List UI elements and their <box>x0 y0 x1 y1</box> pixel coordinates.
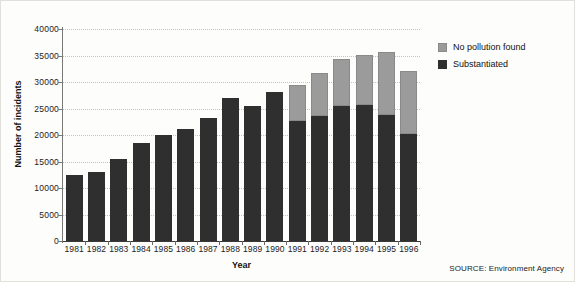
bar-segment-substantiated[interactable] <box>311 116 328 241</box>
bar-segment-substantiated[interactable] <box>356 105 373 241</box>
y-axis-tick-mark <box>58 29 63 30</box>
y-axis-tick-label: 40000 <box>34 24 59 34</box>
bar-segment-substantiated[interactable] <box>133 143 150 241</box>
bar-segment-substantiated[interactable] <box>200 118 217 241</box>
legend-item[interactable]: No pollution found <box>438 42 573 52</box>
x-axis-tick-mark <box>286 241 287 245</box>
x-axis-tick-mark <box>242 241 243 245</box>
bar-segment-substantiated[interactable] <box>289 121 306 241</box>
y-axis-tick-label: 25000 <box>34 104 59 114</box>
bar-segment-no-pollution-found[interactable] <box>311 73 328 116</box>
bar-segment-substantiated[interactable] <box>244 106 261 241</box>
y-axis-tick-mark <box>58 135 63 136</box>
bar-segment-substantiated[interactable] <box>88 172 105 241</box>
bar-segment-substantiated[interactable] <box>333 106 350 241</box>
y-axis-tick-mark <box>58 56 63 57</box>
y-axis-tick-label: 15000 <box>34 157 59 167</box>
bar-segment-substantiated[interactable] <box>400 134 417 241</box>
x-axis-tick-mark <box>130 241 131 245</box>
y-axis-tick-labels: 0500010000150002000025000300003500040000 <box>1 1 59 282</box>
x-axis-tick-mark <box>197 241 198 245</box>
bar-segment-substantiated[interactable] <box>378 115 395 241</box>
x-axis-tick-labels: 1981198219831984198519861987198819891990… <box>63 244 420 260</box>
y-axis-tick-mark <box>58 82 63 83</box>
x-axis-tick-mark <box>264 241 265 245</box>
y-axis-tick-label: 10000 <box>34 183 59 193</box>
y-axis-tick-mark <box>58 241 63 242</box>
bar-segment-no-pollution-found[interactable] <box>356 55 373 105</box>
y-axis-tick-mark <box>58 188 63 189</box>
legend-item-label: Substantiated <box>453 59 508 69</box>
x-axis-tick-mark <box>308 241 309 245</box>
x-axis-tick-label: 1996 <box>392 244 426 254</box>
bar-segment-no-pollution-found[interactable] <box>400 71 417 134</box>
plot-area <box>63 29 420 241</box>
x-axis-tick-mark <box>108 241 109 245</box>
x-axis-tick-mark <box>420 241 421 245</box>
x-axis-tick-mark <box>375 241 376 245</box>
chart-figure: 0500010000150002000025000300003500040000… <box>0 0 575 282</box>
bar-segment-substantiated[interactable] <box>110 159 127 241</box>
x-axis-tick-mark <box>175 241 176 245</box>
chart-legend: No pollution foundSubstantiated <box>438 42 573 76</box>
bar-segment-substantiated[interactable] <box>155 135 172 241</box>
y-axis-tick-label: 5000 <box>39 210 59 220</box>
x-axis-tick-mark <box>353 241 354 245</box>
x-axis-tick-mark <box>152 241 153 245</box>
bar-segment-substantiated[interactable] <box>66 175 83 241</box>
bar-segment-no-pollution-found[interactable] <box>378 52 395 116</box>
y-axis-tick-label: 35000 <box>34 51 59 61</box>
bar-segment-substantiated[interactable] <box>177 129 194 241</box>
x-axis-tick-mark <box>85 241 86 245</box>
y-axis-tick-label: 20000 <box>34 130 59 140</box>
y-axis-tick-mark <box>58 109 63 110</box>
legend-swatch-icon <box>438 43 447 52</box>
legend-item-label: No pollution found <box>453 42 526 52</box>
x-axis-tick-mark <box>331 241 332 245</box>
source-note: SOURCE: Environment Agency <box>449 264 564 273</box>
x-axis-tick-mark <box>219 241 220 245</box>
bar-segment-no-pollution-found[interactable] <box>289 85 306 121</box>
y-axis-tick-mark <box>58 215 63 216</box>
y-axis-tick-mark <box>58 162 63 163</box>
x-axis-tick-mark <box>398 241 399 245</box>
x-axis-title: Year <box>63 260 420 270</box>
legend-item[interactable]: Substantiated <box>438 59 573 69</box>
bar-segment-no-pollution-found[interactable] <box>333 59 350 107</box>
legend-swatch-icon <box>438 60 447 69</box>
y-axis-tick-label: 30000 <box>34 77 59 87</box>
gridline <box>63 29 420 30</box>
y-axis-title: Number of incidents <box>13 64 23 184</box>
bar-segment-substantiated[interactable] <box>266 92 283 241</box>
bar-segment-substantiated[interactable] <box>222 98 239 241</box>
